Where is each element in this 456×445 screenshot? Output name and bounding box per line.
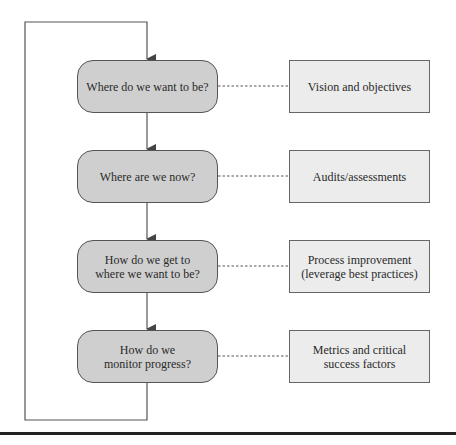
step-label: How do we get to where we want to be?: [92, 253, 203, 281]
step-box-2: Where are we now?: [77, 150, 218, 203]
step-label: Where are we now?: [100, 170, 196, 184]
step-label: Where do we want to be?: [86, 80, 208, 94]
note-label: Process improvement (leverage best pract…: [300, 253, 419, 281]
note-box-4: Metrics and critical success factors: [289, 330, 430, 383]
bottom-rule: [0, 432, 456, 435]
note-label: Audits/assessments: [313, 170, 406, 184]
note-box-1: Vision and objectives: [289, 60, 430, 113]
note-label: Metrics and critical success factors: [308, 343, 411, 371]
note-box-2: Audits/assessments: [289, 150, 430, 203]
note-label: Vision and objectives: [308, 80, 411, 94]
step-box-4: How do we monitor progress?: [77, 330, 218, 383]
step-box-3: How do we get to where we want to be?: [77, 240, 218, 293]
note-box-3: Process improvement (leverage best pract…: [289, 240, 430, 293]
step-label: How do we monitor progress?: [100, 343, 195, 371]
step-box-1: Where do we want to be?: [77, 60, 218, 113]
